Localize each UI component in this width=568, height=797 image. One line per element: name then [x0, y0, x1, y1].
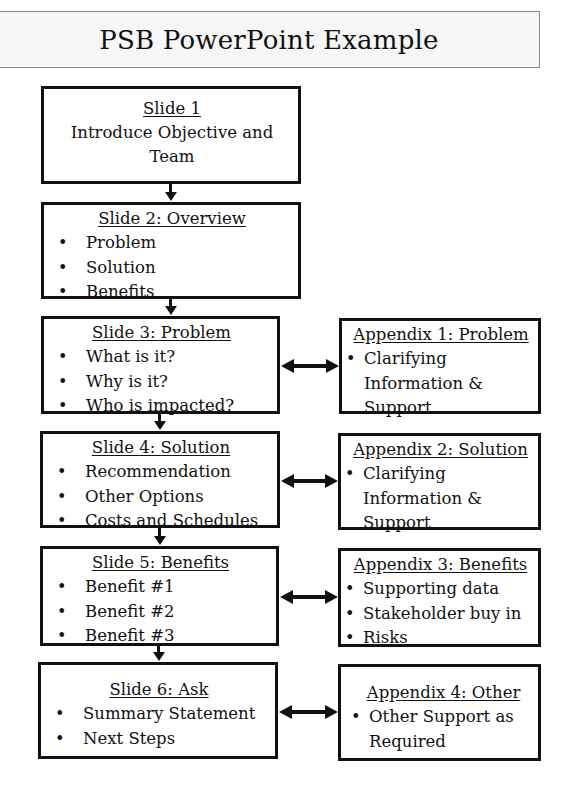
list-item: Solution — [52, 256, 292, 281]
slide-6-box: Slide 6: Ask Summary Statement Next Step… — [38, 662, 278, 759]
slide-5-list: Benefit #1 Benefit #2 Benefit #3 — [51, 575, 270, 649]
slide-6-list: Summary Statement Next Steps — [49, 702, 269, 751]
arrow-down-icon — [165, 192, 177, 201]
list-item-continuation: Support — [345, 511, 536, 536]
appendix-1-list: Clarifying — [346, 347, 536, 372]
slide-2-box: Slide 2: Overview Problem Solution Benef… — [41, 202, 301, 299]
arrow-down-icon — [153, 652, 165, 661]
list-item: Next Steps — [49, 727, 269, 752]
list-item: Why is it? — [52, 370, 271, 395]
list-item: Recommendation — [51, 460, 271, 485]
arrow-down-icon — [165, 306, 177, 315]
slide-3-title: Slide 3: Problem — [52, 321, 271, 345]
double-arrow-icon — [281, 359, 339, 373]
slide-3-list: What is it? Why is it? Who is impacted? — [52, 345, 271, 419]
list-item: Clarifying — [345, 462, 536, 487]
slide-2-title: Slide 2: Overview — [52, 207, 292, 231]
appendix-3-box: Appendix 3: Benefits Supporting data Sta… — [338, 548, 541, 647]
slide-3-box: Slide 3: Problem What is it? Why is it? … — [41, 316, 280, 414]
diagram-title-box: PSB PowerPoint Example — [0, 11, 540, 68]
slide-4-list: Recommendation Other Options Costs and S… — [51, 460, 271, 534]
list-item: Benefit #2 — [51, 600, 270, 625]
list-item: Supporting data — [345, 577, 536, 602]
list-item: Problem — [52, 231, 292, 256]
list-item: Other Options — [51, 485, 271, 510]
slide-1-box: Slide 1 Introduce Objective and Team — [41, 86, 301, 184]
list-item-continuation: Required — [351, 730, 536, 755]
list-item: Clarifying — [346, 347, 536, 372]
arrow-down-icon — [154, 536, 166, 545]
appendix-4-list: Other Support as — [351, 705, 536, 730]
list-item: Benefit #3 — [51, 624, 270, 649]
list-item: Benefit #1 — [51, 575, 270, 600]
appendix-1-title: Appendix 1: Problem — [346, 323, 536, 347]
appendix-1-box: Appendix 1: Problem Clarifying Informati… — [339, 318, 541, 414]
list-item-continuation: Information & — [345, 487, 536, 512]
double-arrow-icon — [281, 474, 338, 488]
list-item-continuation: Support — [346, 396, 536, 421]
appendix-3-list: Supporting data Stakeholder buy in Risks — [345, 577, 536, 651]
appendix-4-box: Appendix 4: Other Other Support as Requi… — [338, 664, 541, 761]
list-item: Who is impacted? — [52, 394, 271, 419]
list-item: Costs and Schedules — [51, 509, 271, 534]
appendix-2-title: Appendix 2: Solution — [345, 438, 536, 462]
double-arrow-icon — [279, 705, 338, 719]
list-item: What is it? — [52, 345, 271, 370]
arrow-down-icon — [154, 421, 166, 430]
list-item: Risks — [345, 626, 536, 651]
list-item: Summary Statement — [49, 702, 269, 727]
slide-4-title: Slide 4: Solution — [51, 436, 271, 460]
appendix-2-box: Appendix 2: Solution Clarifying Informat… — [338, 433, 541, 530]
appendix-4-title: Appendix 4: Other — [351, 681, 536, 705]
appendix-3-title: Appendix 3: Benefits — [345, 553, 536, 577]
slide-5-title: Slide 5: Benefits — [51, 551, 270, 575]
diagram-title: PSB PowerPoint Example — [99, 25, 438, 55]
list-item: Other Support as — [351, 705, 536, 730]
slide-1-title: Slide 1 — [52, 97, 292, 121]
slide-2-list: Problem Solution Benefits — [52, 231, 292, 305]
list-item: Stakeholder buy in — [345, 602, 536, 627]
slide-5-box: Slide 5: Benefits Benefit #1 Benefit #2 … — [40, 546, 279, 646]
slide-6-title: Slide 6: Ask — [49, 678, 269, 702]
double-arrow-icon — [280, 590, 338, 604]
slide-1-subtitle: Introduce Objective and Team — [52, 121, 292, 169]
list-item-continuation: Information & — [346, 372, 536, 397]
appendix-2-list: Clarifying — [345, 462, 536, 487]
list-item: Benefits — [52, 280, 292, 305]
slide-4-box: Slide 4: Solution Recommendation Other O… — [40, 431, 280, 528]
